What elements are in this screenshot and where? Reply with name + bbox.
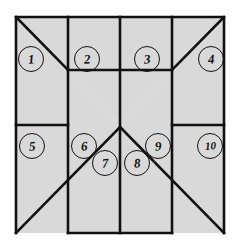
region-label-1: 1 — [18, 46, 44, 72]
region-5-number: 5 — [28, 139, 35, 152]
region-label-4: 4 — [198, 46, 224, 72]
region-label-8: 8 — [124, 150, 150, 176]
region-9-number: 9 — [154, 139, 161, 152]
diagram-outlines — [16, 17, 224, 233]
region-3-number: 3 — [143, 52, 150, 65]
region-label-5: 5 — [19, 133, 45, 159]
region-6-number: 6 — [80, 139, 87, 152]
region-label-7: 7 — [92, 150, 118, 176]
diagram-canvas — [0, 0, 239, 250]
region-7-number: 7 — [101, 156, 108, 169]
region-label-9: 9 — [145, 133, 171, 159]
region-1-number: 1 — [27, 52, 34, 65]
region-label-10: 10 — [197, 133, 223, 159]
roof-plan-diagram: 1 2 3 4 5 6 7 8 9 10 — [0, 0, 239, 250]
region-2-number: 2 — [83, 52, 90, 65]
region-4-number: 4 — [207, 52, 214, 65]
region-10-number: 10 — [204, 140, 216, 152]
region-8-number: 8 — [133, 156, 140, 169]
region-label-3: 3 — [134, 46, 160, 72]
region-label-2: 2 — [74, 46, 100, 72]
